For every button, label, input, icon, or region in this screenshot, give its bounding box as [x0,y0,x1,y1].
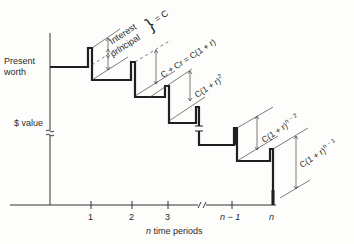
tick-label-2: 2 [129,212,134,222]
x-axis-title-rest: time periods [151,226,203,236]
annotation-third: C(1 + r)2 [192,72,226,99]
x-axis-title: n time periods [146,226,203,236]
y-axis [46,33,54,205]
present-worth-diagram: Present worth $ value 1 2 3 n − 1 n n ti… [0,0,354,244]
tick-label-n: n [269,212,274,222]
annotation-fifth: C(1 + r)n − 1 [297,137,339,170]
tick-label-1: 1 [88,212,93,222]
y-label-worth: worth [3,67,26,77]
y-label-dollar-value: $ value [14,118,43,128]
annotation-interest-principal: Interest principal } = C [102,3,173,60]
svg-text:= C: = C [153,8,171,24]
y-label-present: Present [4,56,36,66]
tick-label-3: 3 [165,212,170,222]
annotation-second: C + Cr = C(1 + r) [159,37,218,80]
tick-label-n-minus-1: n − 1 [220,212,240,222]
annotation-fourth: C(1 + r)n − 2 [259,112,301,145]
diagram-canvas: Present worth $ value 1 2 3 n − 1 n n ti… [0,0,354,244]
